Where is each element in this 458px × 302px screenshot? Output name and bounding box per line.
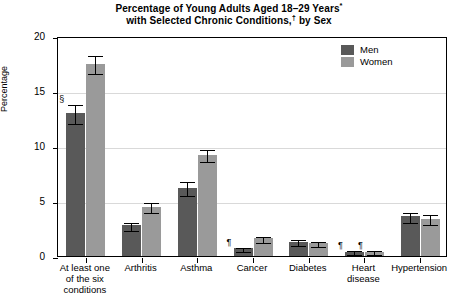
bar-men bbox=[178, 188, 197, 256]
error-bar-cap-bottom bbox=[347, 255, 362, 256]
legend-label-women: Women bbox=[360, 56, 393, 68]
error-bar-cap-bottom bbox=[423, 225, 438, 226]
x-axis-tick-label: Hypertension bbox=[374, 262, 458, 273]
error-bar bbox=[234, 248, 253, 254]
y-axis-tick-label: 15 bbox=[15, 86, 45, 97]
error-bar-cap-top bbox=[124, 223, 139, 224]
error-bar bbox=[401, 213, 420, 224]
error-bar bbox=[86, 56, 105, 76]
error-bar-cap-bottom bbox=[256, 243, 271, 244]
bar-group: ¶ bbox=[234, 38, 273, 256]
bar-men bbox=[66, 113, 85, 256]
error-bar bbox=[66, 105, 85, 125]
error-bar-cap-top bbox=[367, 251, 382, 252]
y-axis-tick-label: 10 bbox=[15, 141, 45, 152]
legend-swatch-men-icon bbox=[341, 45, 354, 55]
chart-legend: Men Women bbox=[341, 44, 393, 68]
y-axis-tick-label: 20 bbox=[15, 31, 45, 42]
error-bar bbox=[309, 242, 328, 249]
chart-title-line-1: Percentage of Young Adults Aged 18–29 Ye… bbox=[115, 3, 339, 14]
chart-title-line-2: with Selected Chronic Conditions, bbox=[126, 15, 292, 26]
error-bar-cap-bottom bbox=[236, 252, 251, 253]
error-bar bbox=[198, 150, 217, 163]
error-bar bbox=[345, 251, 364, 255]
error-bar-stem bbox=[187, 182, 188, 197]
error-bar-cap-top bbox=[200, 150, 215, 151]
footnote-marker: § bbox=[59, 95, 64, 104]
footnote-marker: ¶ bbox=[227, 238, 232, 247]
chart-title-footnote-asterisk: * bbox=[340, 1, 343, 10]
y-axis-tick-mark bbox=[53, 148, 58, 149]
y-axis-tick-mark bbox=[53, 93, 58, 94]
error-bar-cap-bottom bbox=[124, 231, 139, 232]
error-bar-cap-top bbox=[256, 237, 271, 238]
error-bar bbox=[122, 223, 141, 232]
error-bar-cap-bottom bbox=[311, 247, 326, 248]
error-bar-cap-bottom bbox=[180, 196, 195, 197]
bar-group bbox=[122, 38, 161, 256]
bar-group bbox=[401, 38, 440, 256]
error-bar-cap-top bbox=[403, 213, 418, 214]
error-bar-cap-top bbox=[347, 251, 362, 252]
footnote-marker: ¶ bbox=[358, 241, 363, 250]
legend-label-men: Men bbox=[360, 44, 378, 56]
y-axis-tick-label: 0 bbox=[15, 251, 45, 262]
error-bar-cap-top bbox=[311, 242, 326, 243]
bar-group bbox=[289, 38, 328, 256]
y-axis-tick-mark bbox=[53, 258, 58, 259]
error-bar-cap-top bbox=[423, 215, 438, 216]
error-bar bbox=[142, 203, 161, 214]
y-axis-tick-label: 5 bbox=[15, 196, 45, 207]
bar-group: ¶¶ bbox=[345, 38, 384, 256]
chart-container: Percentage of Young Adults Aged 18–29 Ye… bbox=[0, 0, 458, 302]
error-bar bbox=[365, 251, 384, 255]
error-bar-cap-top bbox=[88, 56, 103, 57]
error-bar-cap-bottom bbox=[88, 74, 103, 75]
legend-item-women: Women bbox=[341, 56, 393, 68]
y-axis-tick-mark bbox=[53, 203, 58, 204]
error-bar-cap-bottom bbox=[367, 255, 382, 256]
error-bar-cap-bottom bbox=[200, 162, 215, 163]
error-bar-cap-top bbox=[68, 105, 83, 106]
error-bar bbox=[178, 182, 197, 197]
error-bar-cap-top bbox=[236, 248, 251, 249]
error-bar-cap-top bbox=[291, 240, 306, 241]
error-bar bbox=[421, 215, 440, 226]
bar-group bbox=[178, 38, 217, 256]
legend-item-men: Men bbox=[341, 44, 393, 56]
error-bar bbox=[254, 237, 273, 245]
error-bar-cap-bottom bbox=[403, 223, 418, 224]
error-bar bbox=[289, 240, 308, 247]
error-bar-cap-bottom bbox=[68, 124, 83, 125]
error-bar-stem bbox=[75, 105, 76, 125]
error-bar-cap-bottom bbox=[291, 246, 306, 247]
error-bar-cap-top bbox=[144, 203, 159, 204]
bar-women bbox=[198, 155, 217, 256]
legend-swatch-women-icon bbox=[341, 57, 354, 67]
error-bar-stem bbox=[95, 56, 96, 76]
chart-title: Percentage of Young Adults Aged 18–29 Ye… bbox=[0, 3, 458, 27]
chart-title-line-2-tail: by Sex bbox=[296, 15, 332, 26]
plot-area: §¶¶¶ bbox=[57, 37, 447, 257]
y-axis-title: Percentage bbox=[0, 49, 9, 129]
y-axis-tick-mark bbox=[53, 38, 58, 39]
bar-women bbox=[86, 64, 105, 257]
footnote-marker: ¶ bbox=[338, 241, 343, 250]
bar-group: § bbox=[66, 38, 105, 256]
error-bar-cap-top bbox=[180, 182, 195, 183]
error-bar-cap-bottom bbox=[144, 213, 159, 214]
